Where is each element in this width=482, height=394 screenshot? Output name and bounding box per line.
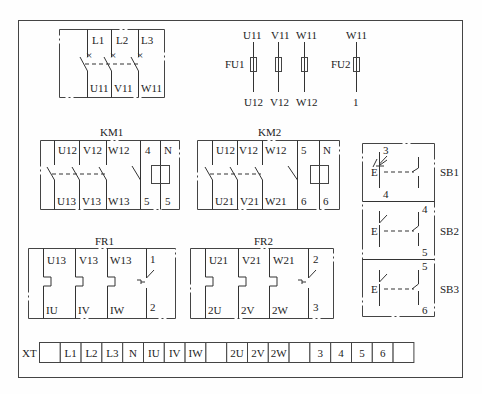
terminal-cell	[393, 343, 414, 363]
svg-text:W12: W12	[265, 144, 286, 156]
qs-out-1: U11	[90, 82, 109, 94]
fu2-bot: 1	[353, 96, 359, 108]
svg-text:W13: W13	[110, 254, 132, 266]
fu1-top-1: U11	[243, 29, 262, 41]
svg-text:3: 3	[313, 301, 319, 313]
terminal-label: IU	[148, 347, 160, 359]
svg-text:V13: V13	[82, 195, 101, 207]
terminal-label: 2W	[271, 347, 288, 359]
terminal-label: 4	[338, 347, 344, 359]
svg-text:U12: U12	[58, 144, 77, 156]
fu1-label: FU1	[225, 58, 245, 70]
svg-text:E: E	[371, 283, 378, 295]
svg-text:2V: 2V	[241, 304, 255, 316]
xt-label: XT	[22, 347, 37, 359]
svg-text:V21: V21	[242, 254, 261, 266]
svg-text:V21: V21	[240, 195, 259, 207]
sb2-label: SB2	[440, 225, 459, 237]
terminal-cell	[40, 343, 61, 363]
fuses: U11 V11 W11 W11 FU1 FU2 U12 V12 W12 1	[225, 29, 367, 108]
svg-text:W21: W21	[265, 195, 286, 207]
svg-text:IW: IW	[110, 304, 125, 316]
svg-text:E: E	[371, 225, 378, 237]
sb1-label: SB1	[440, 166, 459, 178]
fu1-bot-3: W12	[296, 96, 317, 108]
terminal-label: IW	[188, 347, 203, 359]
qs-out-3: W11	[141, 82, 162, 94]
svg-text:5: 5	[422, 260, 428, 272]
svg-text:IV: IV	[78, 304, 90, 316]
svg-text:5: 5	[165, 195, 171, 207]
svg-text:U21: U21	[209, 254, 228, 266]
sb1: E 3 4 SB1	[371, 144, 459, 200]
svg-text:U13: U13	[47, 254, 66, 266]
svg-text:5: 5	[301, 144, 307, 156]
svg-text:6: 6	[323, 195, 329, 207]
svg-text:2: 2	[150, 301, 156, 313]
fu2-label: FU2	[331, 58, 351, 70]
svg-text:W21: W21	[273, 254, 294, 266]
svg-text:3: 3	[383, 144, 389, 156]
qs-in-1: L1	[92, 34, 104, 46]
svg-text:2W: 2W	[272, 304, 289, 316]
km2-label: KM2	[258, 126, 281, 138]
terminal-label: 5	[359, 347, 365, 359]
svg-text:6: 6	[422, 304, 428, 316]
terminal-label: L1	[65, 347, 77, 359]
svg-text:U12: U12	[216, 144, 235, 156]
svg-text:2: 2	[313, 253, 319, 265]
qs-in-3: L3	[141, 34, 154, 46]
sb3-label: SB3	[440, 283, 459, 295]
terminal-cell	[206, 343, 227, 363]
svg-text:1: 1	[150, 253, 156, 265]
svg-text:×: ×	[110, 49, 116, 61]
km1-label: KM1	[100, 126, 123, 138]
contactor-km2: KM2 U12 V12 W12 5 N U21 V21 W21 6 6	[198, 126, 340, 210]
terminal-cell	[289, 343, 310, 363]
fu1-bot-1: U12	[244, 96, 263, 108]
wiring-diagram: × × × L1 L2 L3 U11 V11 W11 U11 V11 W11 W…	[0, 0, 482, 394]
fu2-top: W11	[346, 29, 367, 41]
terminal-strip-xt: XT L1L2L3NIUIVIW2U2V2W3456	[22, 343, 414, 363]
svg-text:W12: W12	[108, 144, 129, 156]
terminal-label: 2U	[230, 347, 244, 359]
qs-out-2: V11	[114, 82, 133, 94]
fu1-top-2: V11	[271, 29, 290, 41]
thermal-relay-fr2: FR2 U21 V21 W21 2 2U 2V 2W 3	[191, 235, 334, 319]
svg-text:U21: U21	[215, 195, 234, 207]
terminal-label: L3	[106, 347, 119, 359]
svg-text:4: 4	[422, 203, 428, 215]
qs-in-2: L2	[116, 34, 128, 46]
svg-text:IU: IU	[46, 304, 58, 316]
svg-text:E: E	[371, 166, 378, 178]
fu1-bot-2: V12	[270, 96, 289, 108]
terminal-label: 3	[318, 347, 324, 359]
svg-text:×: ×	[86, 49, 92, 61]
svg-text:6: 6	[301, 195, 307, 207]
svg-text:4: 4	[145, 144, 151, 156]
sb2: E 4 5 SB2	[371, 203, 459, 258]
svg-text:W13: W13	[108, 195, 130, 207]
terminal-label: 6	[380, 347, 386, 359]
svg-text:V12: V12	[83, 144, 102, 156]
terminal-label: 2V	[251, 347, 265, 359]
terminal-label: L2	[85, 347, 97, 359]
terminal-label: N	[129, 347, 137, 359]
fr1-label: FR1	[95, 235, 114, 247]
sb3: E 5 6 SB3	[371, 260, 459, 316]
terminal-label: IV	[169, 347, 181, 359]
isolator-switch-qs: × × × L1 L2 L3 U11 V11 W11	[60, 30, 165, 98]
push-buttons: E 3 4 SB1 E 4 5 SB2 E 5 6 SB3	[363, 144, 460, 317]
fu1-top-3: W11	[296, 29, 317, 41]
svg-text:×: ×	[137, 49, 143, 61]
svg-text:N: N	[323, 144, 331, 156]
fr2-label: FR2	[254, 235, 273, 247]
svg-text:U13: U13	[57, 195, 76, 207]
svg-text:2U: 2U	[208, 304, 222, 316]
svg-text:5: 5	[422, 246, 428, 258]
svg-text:N: N	[164, 144, 172, 156]
thermal-relay-fr1: FR1 U13 V13 W13 1 IU IV IW 2	[29, 235, 176, 319]
svg-text:V13: V13	[79, 254, 98, 266]
svg-text:4: 4	[383, 188, 389, 200]
svg-text:5: 5	[144, 195, 150, 207]
